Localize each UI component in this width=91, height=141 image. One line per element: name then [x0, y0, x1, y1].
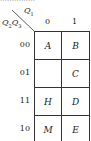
cell-01-1: C: [62, 60, 89, 87]
table-row: H D: [35, 88, 89, 116]
cell-00-1: B: [62, 32, 89, 59]
column-header-0: 0: [34, 17, 61, 26]
column-variable-label: Q1: [24, 6, 34, 17]
karnaugh-map-grid: A B C H D M E: [34, 31, 90, 141]
table-row: M E: [35, 116, 89, 141]
row-variable-label: Q2Q3: [2, 18, 22, 29]
cell-00-0: A: [35, 32, 62, 59]
row-header-01: 01: [0, 68, 30, 77]
row-header-10: 10: [0, 124, 30, 133]
cell-10-1: E: [62, 116, 89, 141]
table-row: A B: [35, 32, 89, 60]
column-header-1: 1: [61, 17, 88, 26]
cell-01-0: [35, 60, 62, 87]
row-header-00: 00: [0, 40, 30, 49]
cell-11-1: D: [62, 88, 89, 115]
table-row: C: [35, 60, 89, 88]
cell-10-0: M: [35, 116, 62, 141]
cell-11-0: H: [35, 88, 62, 115]
row-header-11: 11: [0, 96, 30, 105]
